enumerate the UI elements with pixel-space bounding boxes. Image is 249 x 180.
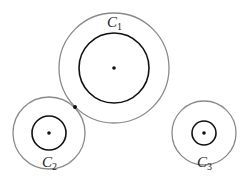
label-c1: C1 [107,14,122,32]
center-point-c2 [47,131,51,135]
center-point-c3 [202,131,206,135]
label-c2: C2 [42,154,57,172]
center-point-c1 [112,66,116,70]
circle-group-c3: C3 [172,101,236,172]
diagram-canvas: C1 C2 C3 [0,0,249,180]
label-c3: C3 [197,154,212,172]
tangent-point [73,105,77,109]
